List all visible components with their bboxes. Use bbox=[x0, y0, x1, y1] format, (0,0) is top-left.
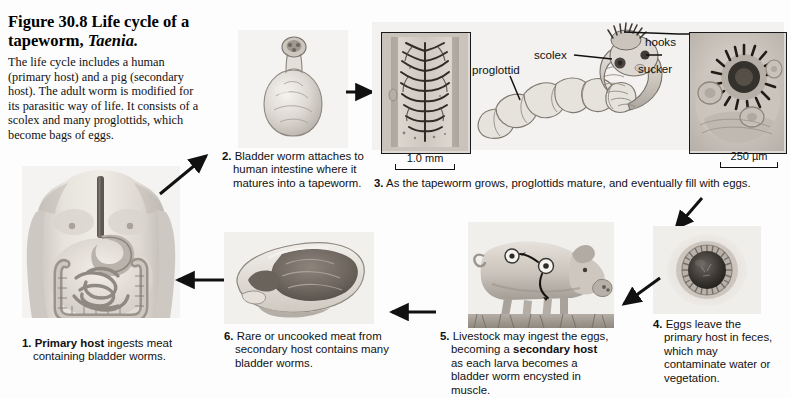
anatomy-label-sucker: sucker bbox=[638, 62, 672, 75]
arrow-pig-to-meat bbox=[382, 300, 442, 324]
step-1-bold: Primary host bbox=[35, 337, 105, 349]
step-3-text: As the tapeworm grows, proglottids matur… bbox=[386, 177, 751, 189]
proglottid-micrograph-image bbox=[382, 33, 468, 151]
step-2-label: 2. Bladder worm attaches to human intest… bbox=[222, 150, 370, 190]
caption-block: Figure 30.8 Life cycle of a tapeworm, Ta… bbox=[8, 12, 204, 143]
arrow-meat-to-human bbox=[166, 266, 230, 294]
step-2-number: 2. bbox=[222, 150, 232, 162]
figure-caption: The life cycle includes a human (primary… bbox=[8, 55, 204, 143]
step-4-number: 4. bbox=[653, 318, 663, 330]
pig-illustration bbox=[468, 222, 614, 328]
scale-bar-scolex-label: 250 µm bbox=[720, 150, 778, 162]
scolex-micrograph-image bbox=[690, 33, 784, 151]
figure-title-italic: Taenia. bbox=[88, 31, 138, 50]
step-4-label: 4. Eggs leave the primary host in feces,… bbox=[653, 318, 779, 385]
step-5-label: 5. Livestock may ingest the eggs, becomi… bbox=[440, 330, 612, 397]
step-1-label: 1. Primary host ingests meat containing … bbox=[22, 337, 197, 364]
scale-bar-scolex-line bbox=[720, 162, 778, 168]
anatomy-label-proglottid: proglottid bbox=[472, 63, 520, 76]
plate-pig bbox=[468, 222, 614, 328]
plate-proglottid-micrograph bbox=[381, 32, 471, 154]
scale-bar-proglottid-label: 1.0 mm bbox=[395, 152, 455, 164]
step-6-number: 6. bbox=[224, 330, 234, 342]
step-3-label: 3. As the tapeworm grows, proglottids ma… bbox=[374, 177, 784, 190]
plate-bladder-worm bbox=[238, 30, 348, 148]
page-title: Figure 30.8 Life cycle of a tapeworm, Ta… bbox=[8, 12, 204, 50]
step-2-text: Bladder worm attaches to human intestine… bbox=[233, 150, 364, 189]
scale-bar-proglottid: 1.0 mm bbox=[395, 152, 455, 170]
step-4-text: Eggs leave the primary host in feces, wh… bbox=[664, 318, 772, 384]
anatomy-label-scolex: scolex bbox=[534, 48, 567, 61]
meat-illustration bbox=[224, 232, 374, 324]
scale-bar-proglottid-line bbox=[395, 164, 455, 170]
plate-egg-micrograph bbox=[653, 226, 761, 314]
step-5-number: 5. bbox=[440, 330, 450, 342]
figure-number: Figure 30.8 bbox=[8, 12, 87, 31]
arrow-egg-to-pig bbox=[614, 272, 664, 314]
step-1-number: 1. bbox=[22, 337, 32, 349]
bladder-worm-illustration bbox=[238, 30, 348, 148]
tapeworm-egg-image bbox=[653, 226, 761, 314]
plate-meat bbox=[224, 232, 374, 324]
step-5-bold: secondary host bbox=[513, 343, 597, 355]
step-3-number: 3. bbox=[374, 177, 384, 189]
plate-scolex-micrograph bbox=[689, 32, 787, 154]
step-5-text-post: as each larva becomes a bladder worm enc… bbox=[451, 357, 581, 396]
step-6-text: Rare or uncooked meat from secondary hos… bbox=[235, 330, 389, 369]
scale-bar-scolex: 250 µm bbox=[720, 150, 778, 168]
arrow-human-to-bladder-worm bbox=[156, 150, 218, 198]
figure-lifecycle-tapeworm: Figure 30.8 Life cycle of a tapeworm, Ta… bbox=[0, 0, 791, 398]
step-6-label: 6. Rare or uncooked meat from secondary … bbox=[224, 330, 394, 370]
anatomy-label-hooks: hooks bbox=[645, 35, 676, 48]
